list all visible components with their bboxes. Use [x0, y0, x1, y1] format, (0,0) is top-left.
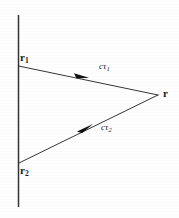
- arrowhead-lower-icon: [77, 124, 93, 133]
- ray-upper-r1-to-r: [19, 66, 159, 95]
- label-field-point-r: r: [163, 88, 168, 99]
- diagram-svg: [0, 0, 179, 218]
- arrowhead-upper-icon: [74, 73, 89, 78]
- label-ctau1-subscript: 1: [107, 65, 110, 72]
- label-ctau2-symbol: cτ: [101, 122, 108, 132]
- label-r2-subscript: 2: [25, 169, 29, 178]
- ray-lower-r2-to-r: [19, 95, 158, 163]
- figure-canvas: r1 r2 r cτ1 cτ2: [0, 0, 179, 218]
- label-r-symbol: r: [163, 87, 168, 99]
- label-ctau1-symbol: cτ: [99, 61, 106, 71]
- label-path-ctau2: cτ2: [101, 123, 112, 133]
- label-path-ctau1: cτ1: [99, 62, 110, 72]
- label-source-point-r2: r2: [20, 165, 29, 178]
- label-source-point-r1: r1: [20, 52, 29, 65]
- label-r1-subscript: 1: [25, 56, 29, 65]
- label-ctau2-subscript: 2: [109, 126, 112, 133]
